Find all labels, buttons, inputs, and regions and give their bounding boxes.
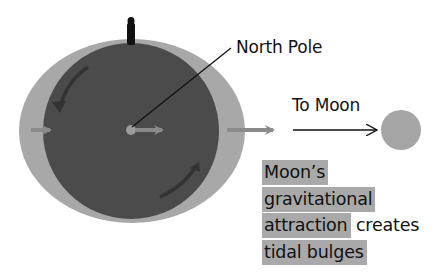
north-pole-label: North Pole bbox=[236, 37, 322, 57]
caption-highlight: gravitational bbox=[262, 187, 375, 212]
center-dot bbox=[126, 125, 136, 135]
caption-highlight: Moon’s bbox=[262, 160, 328, 185]
caption-highlight: tidal bulges bbox=[262, 240, 367, 265]
caption-line: Moon’s bbox=[262, 160, 419, 187]
caption-plain: creates bbox=[351, 215, 420, 235]
to-moon-label: To Moon bbox=[292, 95, 360, 115]
caption: Moon’s gravitational attraction creates … bbox=[262, 160, 419, 266]
caption-line: gravitational bbox=[262, 187, 419, 214]
moon bbox=[381, 110, 421, 150]
observer-figure-icon bbox=[127, 17, 135, 45]
caption-highlight: attraction bbox=[262, 213, 351, 238]
caption-line: attraction creates bbox=[262, 213, 419, 240]
caption-line: tidal bulges bbox=[262, 240, 419, 267]
